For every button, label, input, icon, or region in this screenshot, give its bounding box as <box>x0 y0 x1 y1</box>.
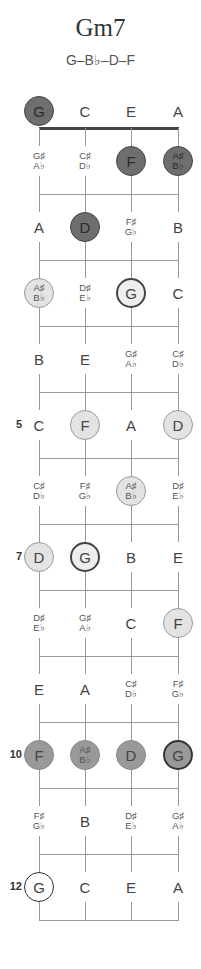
fret-line-7 <box>39 590 179 591</box>
enharmonic-label: G♯A♭ <box>125 349 137 369</box>
note-label: C <box>70 96 100 126</box>
note-label: G♯A♭ <box>70 608 100 638</box>
note-name: C <box>34 418 45 433</box>
note-name: G <box>79 550 91 565</box>
note-name: E <box>126 104 136 119</box>
chord-tone-dot: D <box>163 410 193 440</box>
note-name: A <box>34 220 44 235</box>
chord-tone-dot: D <box>70 212 100 242</box>
note-label: G♯A♭ <box>116 344 146 374</box>
enharmonic-label: D♯E♭ <box>79 283 91 303</box>
note-name: B <box>34 352 44 367</box>
enharmonic-label: G♯A♭ <box>172 811 184 831</box>
chord-tone-dot: G <box>116 278 146 308</box>
note-label: C♯D♭ <box>116 674 146 704</box>
note-label: B <box>70 806 100 836</box>
enharmonic-label: C♯D♭ <box>79 151 91 171</box>
fret-line-2 <box>39 260 179 261</box>
note-label: C <box>163 278 193 308</box>
note-label: F♯G♭ <box>24 806 54 836</box>
note-name: A <box>80 682 90 697</box>
note-label: C <box>24 410 54 440</box>
fret-line-5 <box>39 458 179 459</box>
enharmonic-label: G♯A♭ <box>33 151 45 171</box>
chord-tone-dot: F <box>163 608 193 638</box>
note-label: E <box>24 674 54 704</box>
note-label: F♯G♭ <box>163 674 193 704</box>
chord-tone-dot: F <box>116 146 146 176</box>
chord-tone-dot: G <box>163 740 193 770</box>
enharmonic-label: F♯G♭ <box>33 811 45 831</box>
fret-line-9 <box>39 722 179 723</box>
note-label: B <box>163 212 193 242</box>
enharmonic-label: F♯G♭ <box>125 217 137 237</box>
note-name: E <box>34 682 44 697</box>
fret-line-3 <box>39 326 179 327</box>
fret-number: 12 <box>6 880 22 892</box>
note-label: E <box>70 344 100 374</box>
enharmonic-label: F♯G♭ <box>79 481 91 501</box>
note-label: D♯E♭ <box>163 476 193 506</box>
chord-tone-dot: A♯B♭ <box>24 278 54 308</box>
enharmonic-label: G♯A♭ <box>79 613 91 633</box>
fret-line-1 <box>39 194 179 195</box>
note-name: A <box>126 418 136 433</box>
note-name: D <box>80 220 91 235</box>
note-name: G <box>125 286 137 301</box>
note-name: F <box>126 154 135 169</box>
enharmonic-label: C♯D♭ <box>33 481 45 501</box>
fret-line-6 <box>39 524 179 525</box>
enharmonic-label: D♯E♭ <box>125 811 137 831</box>
fret-number: 7 <box>6 550 22 562</box>
note-label: C <box>70 872 100 902</box>
note-name: E <box>126 880 136 895</box>
note-label: A <box>70 674 100 704</box>
fret-line-11 <box>39 854 179 855</box>
chord-title: Gm7 <box>0 14 201 42</box>
nut <box>39 127 179 130</box>
note-label: F♯G♭ <box>116 212 146 242</box>
fret-line-8 <box>39 656 179 657</box>
chord-tone-dot: D <box>24 542 54 572</box>
note-label: C♯D♭ <box>70 146 100 176</box>
enharmonic-label: C♯D♭ <box>172 349 184 369</box>
enharmonic-label: A♯B♭ <box>172 151 183 171</box>
note-label: B <box>24 344 54 374</box>
note-name: D <box>126 748 137 763</box>
enharmonic-label: A♯B♭ <box>33 283 44 303</box>
fret-number: 10 <box>6 748 22 760</box>
note-name: B <box>80 814 90 829</box>
note-label: D♯E♭ <box>24 608 54 638</box>
enharmonic-label: D♯E♭ <box>33 613 45 633</box>
note-label: E <box>116 96 146 126</box>
chord-tone-dot: G <box>24 872 54 902</box>
note-name: E <box>80 352 90 367</box>
note-name: G <box>172 748 184 763</box>
chord-tone-dot: A♯B♭ <box>163 146 193 176</box>
enharmonic-label: D♯E♭ <box>172 481 184 501</box>
note-label: C♯D♭ <box>24 476 54 506</box>
note-name: C <box>126 616 137 631</box>
chord-tone-dot: D <box>116 740 146 770</box>
note-name: G <box>33 104 45 119</box>
fret-line-4 <box>39 392 179 393</box>
note-label: G♯A♭ <box>163 806 193 836</box>
fret-line-12 <box>39 920 179 921</box>
note-name: G <box>33 880 45 895</box>
note-name: B <box>173 220 183 235</box>
chord-tone-dot: G <box>24 96 54 126</box>
chord-tone-dot: F <box>70 410 100 440</box>
note-label: D♯E♭ <box>70 278 100 308</box>
chord-tone-dot: G <box>70 542 100 572</box>
note-label: E <box>163 542 193 572</box>
note-label: D♯E♭ <box>116 806 146 836</box>
note-label: C♯D♭ <box>163 344 193 374</box>
note-label: A <box>116 410 146 440</box>
note-label: E <box>116 872 146 902</box>
note-label: F♯G♭ <box>70 476 100 506</box>
note-name: D <box>173 418 184 433</box>
note-name: F <box>80 418 89 433</box>
note-name: D <box>34 550 45 565</box>
note-label: B <box>116 542 146 572</box>
note-name: C <box>173 286 184 301</box>
